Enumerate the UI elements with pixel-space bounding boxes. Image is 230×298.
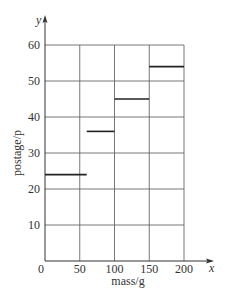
tick-labels: 050100150200102030405060 [28, 38, 193, 276]
y-tick-label: 10 [28, 218, 40, 232]
axes [43, 15, 215, 264]
y-axis-title: postage/p [10, 130, 24, 176]
x-axis-title: mass/g [111, 274, 144, 288]
y-axis-symbol: y [35, 13, 42, 27]
postage-step-chart: 050100150200102030405060 mass/g postage/… [0, 0, 230, 298]
y-tick-label: 60 [28, 38, 40, 52]
y-tick-label: 40 [28, 110, 40, 124]
y-tick-label: 20 [28, 182, 40, 196]
y-tick-label: 50 [28, 74, 40, 88]
x-tick-label: 200 [175, 262, 193, 276]
gridlines [45, 45, 184, 261]
x-tick-label: 0 [38, 262, 44, 276]
x-axis-symbol: x [208, 261, 215, 275]
y-tick-label: 30 [28, 146, 40, 160]
x-tick-label: 50 [74, 262, 86, 276]
